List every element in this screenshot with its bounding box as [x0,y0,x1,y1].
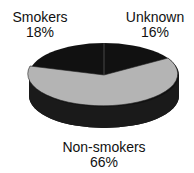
label-unknown-name: Unknown [122,10,188,25]
label-non-smokers-value: 66% [52,155,156,170]
label-smokers-name: Smokers [8,10,72,25]
label-unknown: Unknown 16% [122,10,188,40]
label-smokers: Smokers 18% [8,10,72,40]
label-smokers-value: 18% [8,25,72,40]
label-non-smokers: Non-smokers 66% [52,140,156,170]
label-unknown-value: 16% [122,25,188,40]
pie-chart: Smokers 18% Unknown 16% Non-smokers 66% [0,0,194,173]
label-non-smokers-name: Non-smokers [52,140,156,155]
